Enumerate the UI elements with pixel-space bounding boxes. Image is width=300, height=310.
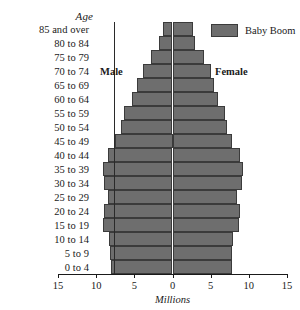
legend-label-baby-boom: Baby Boom <box>245 25 295 36</box>
bar-female <box>173 148 240 162</box>
x-axis-tick-label: 5 <box>196 280 226 291</box>
bar-female <box>173 106 226 120</box>
pyramid-row <box>58 148 287 162</box>
legend-swatch-baby-boom <box>211 24 238 37</box>
bar-male <box>121 120 172 134</box>
bar-male <box>108 148 173 162</box>
x-axis-tick-label: 15 <box>43 280 73 291</box>
x-axis-tick-label: 10 <box>234 280 264 291</box>
bar-male <box>109 232 172 246</box>
x-axis-tick <box>249 274 250 278</box>
pyramid-row <box>58 218 287 232</box>
x-axis-tick <box>134 274 135 278</box>
bar-female <box>173 162 244 176</box>
male-series-label: Male <box>100 66 123 77</box>
zero-axis-line <box>114 22 115 274</box>
pyramid-row <box>58 120 287 134</box>
x-axis-tick-label: 10 <box>81 280 111 291</box>
bar-female <box>173 36 196 50</box>
x-axis-tick-label: 0 <box>158 280 188 291</box>
bar-female <box>173 120 227 134</box>
bar-male <box>151 50 172 64</box>
bar-male <box>132 92 172 106</box>
pyramid-row <box>58 78 287 92</box>
pyramid-row <box>58 50 287 64</box>
pyramid-row <box>58 36 287 50</box>
x-axis-title: Millions <box>58 294 287 305</box>
plot-area <box>58 22 287 274</box>
pyramid-row <box>58 134 287 148</box>
x-axis-tick-label: 5 <box>119 280 149 291</box>
age-axis-header: Age <box>0 10 93 22</box>
pyramid-row <box>58 260 287 274</box>
x-axis-tick <box>96 274 97 278</box>
x-axis-tick <box>173 274 174 278</box>
bar-female <box>173 204 240 218</box>
pyramid-row <box>58 92 287 106</box>
bar-female <box>173 260 233 274</box>
female-series-label: Female <box>215 66 248 77</box>
bar-male <box>111 260 173 274</box>
bar-male <box>159 36 173 50</box>
bar-male <box>163 22 173 36</box>
bar-female <box>173 22 194 36</box>
bar-male <box>124 106 173 120</box>
pyramid-row <box>58 246 287 260</box>
x-axis-tick <box>287 274 288 278</box>
bar-female <box>173 232 233 246</box>
bar-male <box>108 190 173 204</box>
bar-female <box>173 176 242 190</box>
pyramid-row <box>58 106 287 120</box>
population-pyramid-chart: Age 85 and over80 to 8475 to 7970 to 746… <box>0 0 300 310</box>
bar-female <box>173 78 214 92</box>
bar-female <box>173 218 239 232</box>
pyramid-row <box>58 190 287 204</box>
bar-male <box>115 134 172 148</box>
x-axis-tick <box>211 274 212 278</box>
pyramid-row <box>58 204 287 218</box>
bar-female <box>173 246 233 260</box>
x-axis-tick <box>58 274 59 278</box>
bar-male <box>110 246 173 260</box>
bar-female <box>173 64 211 78</box>
bar-female <box>173 92 218 106</box>
pyramid-row <box>58 64 287 78</box>
bar-female <box>173 134 233 148</box>
pyramid-row <box>58 232 287 246</box>
bar-male <box>143 64 173 78</box>
legend: Baby Boom <box>211 24 295 37</box>
bar-female <box>173 50 204 64</box>
x-axis-tick-label: 15 <box>272 280 300 291</box>
bar-female <box>173 190 238 204</box>
bar-male <box>137 78 172 92</box>
pyramid-row <box>58 162 287 176</box>
pyramid-row <box>58 176 287 190</box>
